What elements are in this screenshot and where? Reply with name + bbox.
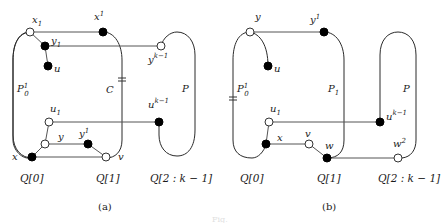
column-label-q0-a: Q[0] (20, 172, 44, 185)
vertex-u1-b (265, 118, 273, 126)
label-u1k-b: uk−1 (386, 109, 407, 122)
label-y1k-a: yk−1 (147, 52, 168, 65)
vertex-u1k-b (376, 118, 384, 126)
path-y-u-b (250, 32, 268, 66)
label-x11-a: x1 (94, 10, 104, 22)
path-left-loop-a (13, 32, 32, 158)
vertex-u-b (264, 62, 272, 70)
figure-canvas: x1 x1 y1 u yk−1 u1 uk−1 y y1 x v P10 C P… (0, 0, 441, 223)
label-p-a: P (181, 83, 189, 94)
label-u1k-a: uk−1 (148, 97, 169, 110)
path-p-right-a (159, 32, 195, 156)
caption-b: (b) (322, 201, 336, 212)
vertex-y1k-a (157, 42, 165, 50)
column-label-q0-b: Q[0] (240, 172, 264, 185)
label-p-b: P (402, 83, 410, 94)
figure-caption-faint: Fig. (212, 215, 228, 223)
vertex-v-a (102, 153, 110, 161)
vertex-x1-a (26, 28, 34, 36)
label-u1-a: u1 (50, 103, 61, 117)
label-x-b: x (277, 132, 283, 143)
panel-b: y y1 u u1 uk−1 x v w w2 P10 P1 P Q[0] Q[… (229, 11, 441, 212)
label-w2-b: w2 (393, 137, 407, 149)
vertex-y-a (41, 140, 49, 148)
caption-a: (a) (98, 201, 112, 212)
vertex-w2-b (394, 154, 402, 162)
label-v-a: v (118, 151, 124, 162)
path-p01-b (233, 32, 266, 158)
vertex-y1sup-a (84, 140, 92, 148)
vertex-u-a (44, 62, 52, 70)
label-u-b: u (274, 63, 280, 74)
label-y-b: y (254, 11, 261, 22)
label-v-b: v (305, 128, 311, 139)
vertex-v-b (305, 140, 313, 148)
path-p01-a (13, 32, 32, 158)
vertex-x11-a (99, 28, 107, 36)
label-u-a: u (54, 63, 60, 74)
path-c-a (103, 32, 122, 158)
column-label-q1-b: Q[1] (317, 172, 341, 185)
label-y1-a: y1 (50, 35, 61, 49)
vertex-u1k-a (155, 118, 163, 126)
label-x-a: x (12, 151, 18, 162)
vertex-x-b (262, 140, 270, 148)
column-label-q2k-b: Q[2 : k − 1] (378, 172, 441, 185)
label-y1sup-a: y1 (78, 127, 89, 139)
vertex-w-b (323, 154, 331, 162)
label-w-b: w (325, 140, 334, 151)
vertex-y1sup-b (320, 28, 328, 36)
panel-a: x1 x1 y1 u yk−1 u1 uk−1 y y1 x v P10 C P… (12, 10, 213, 212)
label-u1-b: u1 (270, 103, 281, 117)
column-label-q1-a: Q[1] (96, 172, 120, 185)
label-p1-b: P1 (327, 83, 339, 97)
label-c-a: C (106, 84, 114, 95)
label-p01-b: P10 (236, 82, 249, 98)
vertex-u1-a (45, 118, 53, 126)
label-x1-a: x1 (32, 14, 42, 28)
label-p01-a: P10 (16, 82, 29, 98)
label-y-a: y (57, 131, 64, 142)
vertex-y-b (246, 28, 254, 36)
column-label-q2k-a: Q[2 : k − 1] (150, 172, 213, 185)
vertex-x-a (28, 153, 36, 161)
label-y1sup-b: y1 (309, 13, 320, 25)
vertex-y1-a (41, 42, 49, 50)
